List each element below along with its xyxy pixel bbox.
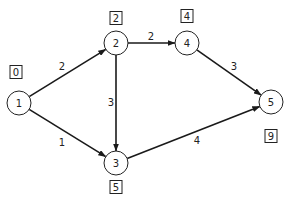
- graph-canvas: 212334 1022354459: [0, 0, 290, 207]
- edges-layer: 212334: [29, 31, 261, 159]
- node-label: 5: [268, 97, 274, 108]
- earliest-time-label: 2: [113, 13, 119, 24]
- earliest-time-label: 9: [268, 131, 274, 142]
- edge-weight-label: 3: [231, 61, 237, 72]
- edge-weight-label: 2: [148, 31, 154, 42]
- edge-4-5: [197, 50, 261, 95]
- edge-weight-label: 1: [59, 137, 65, 148]
- node-label: 3: [113, 158, 119, 169]
- edge-weight-label: 4: [194, 135, 200, 146]
- edge-weight-label: 2: [59, 61, 65, 72]
- edge-weight-label: 3: [108, 97, 114, 108]
- node-3: 35: [104, 151, 128, 194]
- nodes-layer: 1022354459: [7, 10, 283, 194]
- edge-3-5: [127, 106, 260, 158]
- node-label: 4: [184, 38, 190, 49]
- node-1: 10: [7, 66, 31, 116]
- node-2: 22: [104, 12, 128, 56]
- node-label: 1: [16, 98, 22, 109]
- earliest-time-label: 5: [113, 182, 119, 193]
- earliest-time-label: 0: [13, 67, 19, 78]
- edge-1-2: [29, 49, 106, 96]
- earliest-time-label: 4: [184, 11, 190, 22]
- node-4: 44: [175, 10, 199, 56]
- node-label: 2: [113, 38, 119, 49]
- edge-1-3: [29, 109, 106, 156]
- node-5: 59: [259, 90, 283, 143]
